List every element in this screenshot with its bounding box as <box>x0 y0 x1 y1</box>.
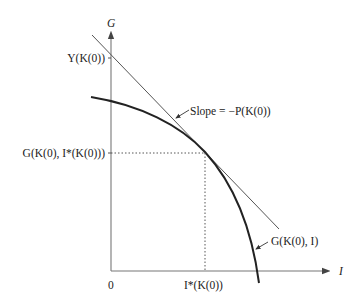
y-axis-label: G <box>107 17 116 29</box>
origin-label: 0 <box>108 279 114 291</box>
curve-leader <box>256 242 268 249</box>
tangent-line <box>92 35 279 229</box>
curve-label: G(K(0), I) <box>271 235 318 248</box>
tangent-value-label: G(K(0), I*(K(0))) <box>23 147 106 160</box>
x-star-label: I*(K(0)) <box>184 279 223 292</box>
slope-label: Slope = −P(K(0)) <box>190 105 271 118</box>
x-axis-label: I <box>338 265 344 277</box>
production-possibility-diagram: G I 0 Y(K(0)) G(K(0), I*(K(0))) Slope = … <box>0 0 360 304</box>
production-curve <box>91 97 259 283</box>
slope-leader <box>176 110 189 118</box>
y-intercept-label: Y(K(0)) <box>67 52 105 65</box>
